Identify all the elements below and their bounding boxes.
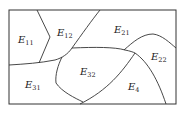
boundary-e11-e12 (37, 10, 50, 63)
boundary-e31-e32 (56, 57, 83, 102)
boundary-e21-e22 (124, 34, 176, 50)
region-label-e11: E11 (17, 34, 34, 47)
region-label-e4: E4 (127, 81, 139, 94)
region-label-e12: E12 (56, 27, 73, 40)
region-label-e22: E22 (150, 51, 167, 64)
region-label-e21: E21 (113, 24, 130, 37)
region-label-e32: E32 (79, 66, 96, 79)
region-label-e31: E31 (24, 79, 41, 92)
partition-diagram: E11E12E21E22E31E32E4 (0, 0, 183, 115)
